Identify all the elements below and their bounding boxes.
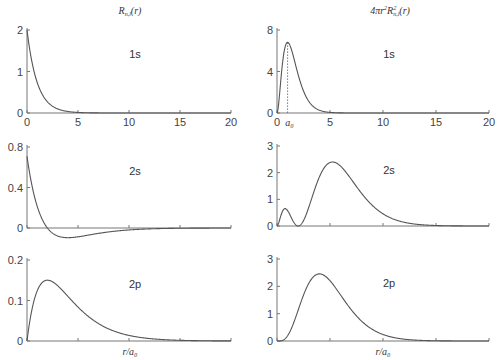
y-tick-label: 4 — [267, 66, 273, 78]
x-tick-label: 10 — [377, 116, 389, 128]
chart-panel-R2p: 00.10.22p — [8, 254, 231, 347]
x-tick-label: 10 — [123, 116, 135, 128]
right-x-axis-title: r/a₀ — [375, 346, 391, 357]
y-tick-label: 1 — [267, 308, 273, 320]
x-tick-label: 0 — [24, 116, 30, 128]
y-tick-label: 2 — [267, 280, 273, 292]
y-tick-label: 3 — [267, 253, 273, 265]
orbital-label: 2p — [383, 277, 395, 289]
x-tick-label: 15 — [174, 116, 186, 128]
orbital-label: 1s — [129, 48, 141, 60]
x-tick-label: 20 — [225, 116, 237, 128]
y-tick-label: 1 — [17, 66, 23, 78]
y-tick-label: 0 — [17, 107, 23, 119]
x-tick-label: 15 — [430, 116, 442, 128]
a0-marker-label: a₀ — [285, 117, 294, 128]
left-column-title: Rn,l(r) — [118, 5, 143, 17]
orbital-label: 2s — [129, 165, 141, 177]
y-tick-label: 0 — [267, 335, 273, 347]
chart-panel-P2s: 01232s — [267, 140, 489, 232]
x-tick-label: 0 — [274, 116, 280, 128]
chart-panel-R2s: 00.40.82s — [8, 141, 231, 238]
y-tick-label: 0 — [267, 220, 273, 232]
y-tick-label: 0.4 — [8, 182, 23, 194]
panels-group: 012051015201s048051015201sa₀00.40.82s012… — [8, 24, 495, 347]
y-tick-label: 2 — [267, 167, 273, 179]
curve-R1s — [27, 30, 231, 113]
y-tick-label: 0 — [267, 107, 273, 119]
y-tick-label: 0.8 — [8, 141, 23, 153]
y-tick-label: 8 — [267, 24, 273, 36]
left-x-axis-title: r/a₀ — [122, 346, 138, 357]
y-tick-label: 0.2 — [8, 254, 23, 266]
y-tick-label: 2 — [17, 24, 23, 36]
y-tick-label: 0.1 — [8, 295, 23, 307]
orbital-label: 2p — [129, 278, 141, 290]
chart-panel-P1s: 048051015201sa₀ — [267, 24, 495, 128]
orbital-charts: Rn,l(r) 4πr2R2n,l(r) 012051015201s048051… — [0, 0, 497, 360]
x-tick-label: 5 — [75, 116, 81, 128]
y-tick-label: 0 — [17, 222, 23, 234]
orbital-label: 2s — [383, 164, 395, 176]
chart-panel-R1s: 012051015201s — [17, 24, 237, 128]
orbital-label: 1s — [383, 48, 395, 60]
chart-panel-P2p: 01232p — [267, 253, 489, 347]
x-tick-label: 20 — [483, 116, 495, 128]
y-tick-label: 1 — [267, 193, 273, 205]
y-tick-label: 3 — [267, 140, 273, 152]
right-column-title: 4πr2R2n,l(r) — [370, 5, 410, 17]
y-tick-label: 0 — [17, 335, 23, 347]
x-tick-label: 5 — [327, 116, 333, 128]
